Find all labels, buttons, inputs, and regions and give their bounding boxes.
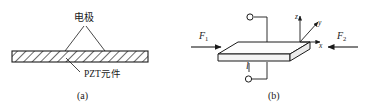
figure-drawing: [0, 0, 366, 112]
coordinate-axes: [300, 16, 320, 42]
pzt-element-label: PZT元件: [84, 70, 121, 80]
plate-front-face: [218, 54, 290, 61]
force-f2-label: F2: [337, 31, 346, 41]
axis-x-label: x: [319, 42, 322, 50]
force-f1-label: F1: [199, 31, 208, 41]
electrode-leader-lines: [65, 26, 105, 51]
length-label: l: [246, 61, 249, 71]
upper-terminal: [247, 14, 253, 20]
panel-a-caption: (a): [77, 91, 88, 101]
force-f1-subscript: 1: [205, 35, 208, 42]
axis-z-label: z: [295, 13, 298, 21]
panel-b-caption: (b): [268, 91, 280, 101]
axis-y-line: [300, 22, 318, 42]
panel-a-drawing: [12, 26, 148, 72]
figure-container: 电极 PZT元件 (a) F1 F2 l z y x (b): [0, 0, 366, 112]
axis-y-label: y: [318, 19, 321, 27]
pzt-bar-hatched: [12, 51, 148, 62]
lower-terminal: [245, 76, 251, 82]
electrode-label: 电极: [74, 13, 94, 23]
force-f2-subscript: 2: [343, 35, 346, 42]
panel-b-drawing: [191, 14, 358, 82]
